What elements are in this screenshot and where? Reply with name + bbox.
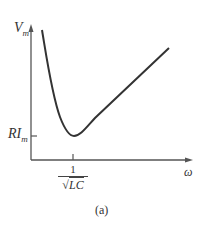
x-axis-arrow-icon xyxy=(185,158,193,163)
y-axis-label: Vm xyxy=(14,20,29,38)
x-tick-numerator: 1 xyxy=(58,163,88,175)
y-tick-label: RIm xyxy=(8,126,28,144)
x-tick-denominator: √LC xyxy=(58,178,88,192)
figure-caption: (a) xyxy=(95,203,108,218)
magnitude-curve xyxy=(42,30,169,136)
resonance-diagram xyxy=(0,0,209,226)
x-tick-label: 1 √LC xyxy=(58,163,88,192)
x-axis-label: ω xyxy=(184,165,192,180)
y-axis-arrow-icon xyxy=(29,24,34,32)
sqrt-icon: √ xyxy=(62,178,69,192)
